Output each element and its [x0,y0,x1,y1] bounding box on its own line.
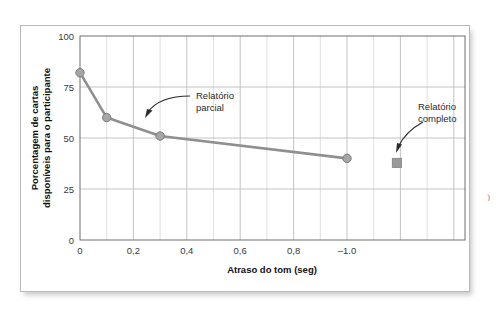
stray-margin-mark: ) [487,192,490,202]
figure-card [20,25,470,292]
